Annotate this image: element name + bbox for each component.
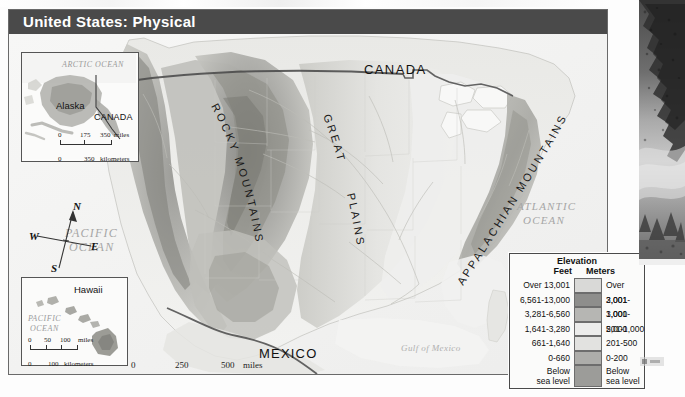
legend-feet-line2: sea level <box>536 376 570 386</box>
legend-rows: Over 13,001 Over 3,001 6,561-13,000 2,00… <box>510 278 644 387</box>
legend-swatch <box>574 365 602 387</box>
legend-row: 661-1,640 201-500 <box>510 336 644 351</box>
scan-fragment <box>640 357 664 366</box>
inset-alaska-scale-bar: 0 175 350 miles 0 350 kilometers <box>58 131 130 165</box>
svg-text:ROCKY MOUNTAINS: ROCKY MOUNTAINS <box>209 101 266 244</box>
ak-km-t2: 350 <box>84 155 95 163</box>
legend-feet-value: 661-1,640 <box>510 336 570 351</box>
map-label-canada: CANADA <box>364 62 427 77</box>
legend-meters-line1: Below <box>606 366 629 376</box>
hi-miles-t1: 50 <box>44 336 51 344</box>
legend-feet-value: 6,561-13,000 <box>510 293 570 308</box>
map-label-great-plains-2: PLAINS <box>329 188 399 303</box>
legend-row: 1,641-3,280 501-1,000 <box>510 322 644 337</box>
inset-alaska-ocean-label: ARCTIC OCEAN <box>62 60 124 69</box>
ak-scale-rule <box>60 140 112 145</box>
compass-west: W <box>29 230 39 242</box>
legend-feet-value: Over 13,001 <box>510 278 570 293</box>
rocky-mountains-text: ROCKY MOUNTAINS <box>209 101 266 244</box>
legend-feet-value: 0-660 <box>510 351 570 366</box>
inset-hawaii-ocean-line1: PACIFIC <box>28 314 61 323</box>
map-label-rocky-mountains: ROCKY MOUNTAINS <box>189 98 319 318</box>
legend-meters-value: 501-1,000 <box>606 322 646 337</box>
legend-feet-value: Below sea level <box>510 365 570 386</box>
compass-needle-icon <box>29 200 109 278</box>
hi-miles-unit: miles <box>78 336 93 344</box>
compass-north: N <box>73 200 81 212</box>
legend-meters-line2: sea level <box>606 376 640 386</box>
elevation-legend: Elevation Feet Meters Over 13,001 Over 3… <box>509 253 645 389</box>
main-scale-bar: 0 250 500 miles 0 250 500 kilometers <box>131 360 276 374</box>
map-label-gulf-of-mexico: Gulf of Mexico <box>401 343 461 353</box>
page-title: United States: Physical <box>23 13 196 30</box>
great-text: GREAT <box>321 112 348 164</box>
legend-column-meters: Meters <box>586 266 644 276</box>
inset-hawaii-label: Hawaii <box>74 284 103 295</box>
inset-hawaii-scale-bar: 0 50 100 miles 0 100 kilometers <box>28 336 110 370</box>
inset-hawaii-ocean-line2: OCEAN <box>30 324 59 333</box>
legend-row: Below sea level Below sea level <box>510 365 644 387</box>
inset-map-hawaii: Hawaii PACIFIC OCEAN 0 50 100 miles <box>21 277 128 366</box>
hi-scale-rule <box>30 345 78 350</box>
forest-photo-image <box>639 0 685 260</box>
ak-km-unit: kilometers <box>100 155 130 163</box>
side-photograph <box>639 0 685 260</box>
hi-km-t0: 0 <box>28 360 32 368</box>
hi-km-unit: kilometers <box>64 360 94 368</box>
legend-row: 3,281-6,560 1,001-2,000 <box>510 307 644 322</box>
plains-text: PLAINS <box>345 192 367 248</box>
page-background: United States: Physical <box>0 0 685 397</box>
legend-feet-value: 1,641-3,280 <box>510 322 570 337</box>
legend-swatch <box>574 351 602 366</box>
map-label-mexico: MEXICO <box>259 346 317 361</box>
compass-south: S <box>51 262 57 274</box>
ak-miles-t2: 350 <box>100 131 111 139</box>
compass-east: E <box>91 240 98 252</box>
legend-swatch <box>574 278 602 293</box>
legend-column-feet: Feet <box>510 266 572 276</box>
main-miles-t0: 0 <box>131 360 136 370</box>
ak-miles-t1: 175 <box>80 131 91 139</box>
compass-rose: N W E S <box>29 200 109 278</box>
hi-miles-t2: 100 <box>60 336 71 344</box>
legend-swatch <box>574 307 602 322</box>
photo-bottom-edge <box>639 259 685 265</box>
main-miles-t1: 250 <box>175 360 189 370</box>
ak-km-t0: 0 <box>58 155 62 163</box>
legend-row: 6,561-13,000 2,001-3,000 <box>510 293 644 308</box>
main-miles-t2: 500 <box>221 360 235 370</box>
legend-row: 0-660 0-200 <box>510 351 644 366</box>
legend-meters-value: Below sea level <box>606 365 646 386</box>
inset-alaska-label: Alaska <box>56 100 85 111</box>
svg-text:GREAT: GREAT <box>321 112 348 164</box>
legend-swatch <box>574 322 602 337</box>
inset-alaska-canada-label: CANADA <box>94 112 133 122</box>
legend-feet-value: 3,281-6,560 <box>510 307 570 322</box>
legend-meters-value: 201-500 <box>606 336 646 351</box>
hi-km-t2: 100 <box>48 360 59 368</box>
scan-artifact <box>0 0 610 7</box>
legend-swatch <box>574 336 602 351</box>
ak-miles-unit: miles <box>114 131 129 139</box>
ak-miles-t0: 0 <box>58 131 62 139</box>
legend-title: Elevation <box>510 256 644 266</box>
legend-swatch <box>574 293 602 308</box>
map-title-bar: United States: Physical <box>9 10 607 34</box>
inset-map-alaska: ARCTIC OCEAN Alaska CANADA 0 175 350 mil… <box>21 52 139 162</box>
legend-feet-line1: Below <box>547 366 570 376</box>
legend-row: Over 13,001 Over 3,001 <box>510 278 644 293</box>
hi-miles-t0: 0 <box>28 336 32 344</box>
main-miles-unit: miles <box>243 360 263 370</box>
svg-text:PLAINS: PLAINS <box>345 192 367 248</box>
